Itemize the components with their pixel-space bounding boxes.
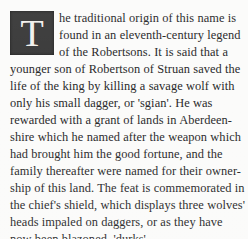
text-line: ship of this land. The feat is commemora… — [10, 180, 238, 197]
text-line: only his small dagger, or 'sgian'. He wa… — [10, 95, 238, 112]
drop-cap-letter: T — [10, 11, 54, 55]
text-line: now been blazoned, 'durks'. — [10, 231, 238, 239]
text-line: had brought him the good fortune, and th… — [10, 146, 238, 163]
text-line: family thereafter were named for their o… — [10, 163, 238, 180]
text-line: rewarded with a grant of lands in Aberde… — [10, 112, 238, 129]
text-line: younger son of Robertson of Struan saved… — [10, 61, 238, 78]
text-line: heads impaled on daggers, or as they hav… — [10, 214, 238, 231]
text-line: the chief's shield, which displays three… — [10, 197, 238, 214]
text-line: shire which he named after the weapon wh… — [10, 129, 238, 146]
text-line: life of the king by killing a savage wol… — [10, 78, 238, 95]
passage-block: T he traditional origin of this name is … — [0, 0, 248, 239]
